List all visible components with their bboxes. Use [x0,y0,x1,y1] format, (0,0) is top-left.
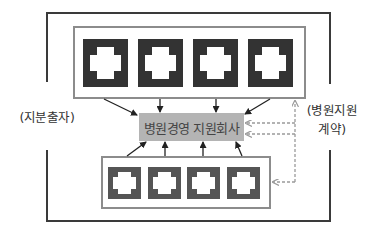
arrow-top-1 [104,99,137,115]
connector-arrows [0,0,376,236]
arrow-bottom-4 [236,142,242,156]
arrow-top-4 [245,99,270,114]
arrow-bottom-1 [127,142,146,156]
